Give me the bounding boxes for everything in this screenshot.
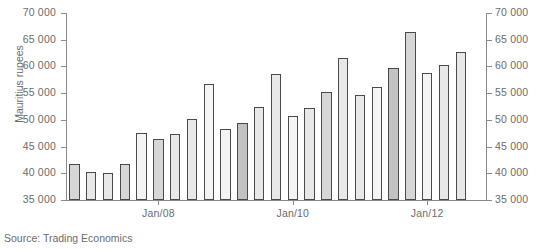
y-tick-label-left: 65 000 [23,33,56,45]
bar[interactable] [204,84,214,200]
y-tick-label-right: 50 000 [495,113,528,125]
bar[interactable] [136,133,146,200]
bar[interactable] [153,139,163,200]
bar[interactable] [456,52,466,200]
bar[interactable] [405,32,415,200]
y-tick-label-left: 70 000 [23,6,56,18]
y-tick-label-right: 60 000 [495,59,528,71]
y-tick-mark-right [487,147,492,148]
y-tick-mark-right [487,13,492,14]
y-tick-label-right: 40 000 [495,166,528,178]
bar[interactable] [254,107,264,200]
bar[interactable] [271,74,281,200]
y-tick-label-left: 55 000 [23,86,56,98]
bar[interactable] [372,87,382,200]
y-axis-right-line [486,13,487,200]
x-tick-label: Jan/08 [142,207,175,219]
bar[interactable] [69,164,79,200]
bar[interactable] [321,92,331,200]
x-tick-mark [293,200,294,205]
y-tick-label-left: 50 000 [23,113,56,125]
x-tick-label: Jan/12 [411,207,444,219]
y-tick-label-right: 35 000 [495,193,528,205]
y-tick-label-left: 60 000 [23,59,56,71]
y-tick-mark-right [487,200,492,201]
y-tick-label-left: 35 000 [23,193,56,205]
y-tick-mark-left [61,200,66,201]
bar[interactable] [120,164,130,200]
y-tick-label-left: 45 000 [23,140,56,152]
x-axis-line [66,200,487,201]
x-tick-label: Jan/10 [276,207,309,219]
bar[interactable] [237,123,247,200]
bar[interactable] [170,134,180,200]
bar[interactable] [220,129,230,200]
chart-title [120,0,420,3]
y-tick-label-left: 40 000 [23,166,56,178]
bar[interactable] [288,116,298,200]
bar[interactable] [187,119,197,200]
bar[interactable] [304,108,314,200]
bar[interactable] [388,68,398,200]
bar[interactable] [422,73,432,200]
y-tick-label-right: 55 000 [495,86,528,98]
y-tick-mark-right [487,93,492,94]
x-tick-mark [158,200,159,205]
bar[interactable] [86,172,96,200]
chart-page: Mauritius rupees 70 00070 00065 00065 00… [0,0,549,251]
bar[interactable] [355,95,365,200]
y-tick-mark-right [487,40,492,41]
x-tick-mark [427,200,428,205]
bar[interactable] [103,173,113,200]
y-tick-mark-right [487,173,492,174]
y-tick-label-right: 70 000 [495,6,528,18]
y-tick-mark-right [487,66,492,67]
y-tick-label-right: 45 000 [495,140,528,152]
source-note: Source: Trading Economics [4,232,132,244]
plot-area [66,13,486,200]
bar[interactable] [439,65,449,200]
y-tick-label-right: 65 000 [495,33,528,45]
bar[interactable] [338,58,348,200]
y-tick-mark-right [487,120,492,121]
